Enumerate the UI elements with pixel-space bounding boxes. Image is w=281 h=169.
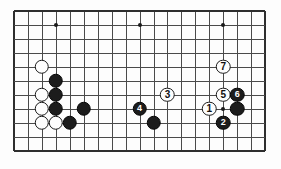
star-point: [221, 107, 225, 111]
grid-line-horizontal: [14, 53, 265, 54]
star-point: [54, 23, 58, 27]
stone-black[interactable]: [146, 115, 161, 130]
stone-move-number: 5: [220, 90, 226, 100]
star-point: [138, 23, 142, 27]
stone-move-2[interactable]: 2: [216, 115, 231, 130]
stone-white[interactable]: [35, 60, 50, 75]
grid-line-horizontal: [14, 137, 265, 138]
stone-black[interactable]: [49, 74, 64, 89]
stone-white[interactable]: [35, 101, 50, 116]
stone-move-5[interactable]: 5: [216, 87, 231, 102]
go-board-diagram: 4312567: [0, 0, 281, 169]
star-point: [221, 23, 225, 27]
stone-white[interactable]: [35, 87, 50, 102]
stone-move-1[interactable]: 1: [202, 101, 217, 116]
stone-move-3[interactable]: 3: [160, 87, 175, 102]
stone-move-number: 4: [137, 104, 142, 113]
stone-white[interactable]: [49, 115, 64, 130]
stone-black[interactable]: [49, 87, 64, 102]
stone-black[interactable]: [49, 101, 64, 116]
stone-black[interactable]: [63, 115, 78, 130]
stone-move-number: 6: [235, 90, 240, 99]
stone-move-7[interactable]: 7: [216, 60, 231, 75]
grid-line-horizontal: [14, 150, 265, 152]
grid-line-horizontal: [14, 10, 265, 12]
grid-line-horizontal: [14, 39, 265, 40]
stone-white[interactable]: [35, 115, 50, 130]
stone-move-number: 3: [165, 90, 171, 100]
stone-black[interactable]: [230, 101, 245, 116]
stone-move-6[interactable]: 6: [230, 87, 245, 102]
stone-black[interactable]: [77, 101, 92, 116]
stone-move-number: 1: [207, 104, 213, 114]
stone-move-number: 2: [221, 118, 226, 127]
stone-move-number: 7: [220, 62, 226, 72]
stone-move-4[interactable]: 4: [132, 101, 147, 116]
